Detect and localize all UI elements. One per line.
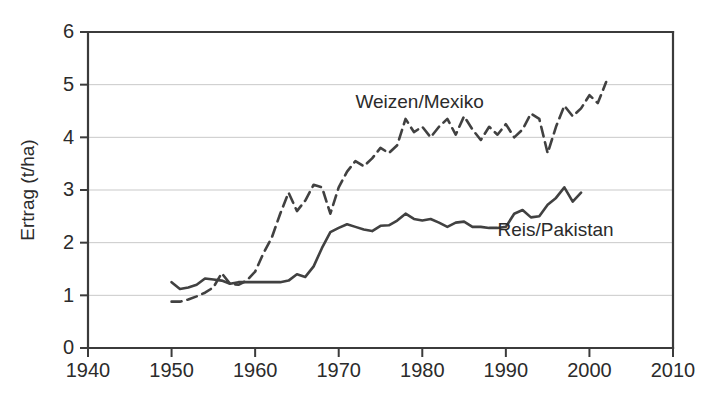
x-tick-label-1990: 1990	[484, 359, 529, 381]
y-tick-marks	[80, 32, 88, 348]
y-tick-label-1: 1	[63, 284, 74, 306]
y-tick-label-5: 5	[63, 73, 74, 95]
y-axis-title-text: Ertrag (t/ha)	[17, 139, 38, 240]
x-tick-label-2000: 2000	[567, 359, 612, 381]
series-line-weizen-mexiko	[172, 82, 607, 302]
y-tick-labels: 0123456	[63, 20, 74, 358]
y-tick-label-2: 2	[63, 231, 74, 253]
x-tick-labels: 19401950196019701980199020002010	[66, 359, 696, 381]
gridlines	[88, 85, 673, 296]
x-tick-marks	[88, 348, 673, 357]
y-axis-title: Ertrag (t/ha)	[17, 139, 38, 240]
x-tick-label-1960: 1960	[233, 359, 278, 381]
series-labels: Weizen/MexikoReis/Pakistan	[355, 91, 613, 240]
y-tick-label-6: 6	[63, 20, 74, 42]
x-tick-label-2010: 2010	[651, 359, 696, 381]
x-tick-label-1940: 1940	[66, 359, 111, 381]
x-tick-label-1970: 1970	[316, 359, 361, 381]
chart-canvas: 0123456 19401950196019701980199020002010…	[0, 0, 721, 406]
y-tick-label-0: 0	[63, 336, 74, 358]
chart-figure: 0123456 19401950196019701980199020002010…	[0, 0, 721, 406]
x-tick-label-1980: 1980	[400, 359, 445, 381]
y-tick-label-3: 3	[63, 178, 74, 200]
y-tick-label-4: 4	[63, 126, 74, 148]
series-label-reis-pakistan: Reis/Pakistan	[498, 219, 614, 240]
x-tick-label-1950: 1950	[149, 359, 194, 381]
data-series	[172, 82, 607, 302]
series-label-weizen-mexiko: Weizen/Mexiko	[355, 91, 483, 112]
